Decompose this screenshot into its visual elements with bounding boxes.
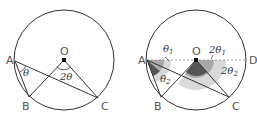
right-label-theta2: θ2 bbox=[160, 73, 171, 86]
left-label-B: B bbox=[22, 100, 30, 113]
right-center-dot bbox=[194, 58, 198, 62]
left-figure: A B C O θ 2θ bbox=[6, 10, 114, 113]
right-arrow-2theta1 bbox=[211, 55, 213, 59]
left-label-A: A bbox=[6, 54, 14, 67]
left-label-theta: θ bbox=[23, 67, 29, 78]
left-angle-arc-O bbox=[57, 67, 71, 70]
left-label-2theta: 2θ bbox=[59, 71, 72, 82]
right-label-A: A bbox=[138, 54, 146, 67]
left-center-dot bbox=[62, 58, 66, 62]
inscribed-angle-diagrams: A B C O θ 2θ A B C O D θ1 θ2 bbox=[0, 0, 257, 117]
right-label-O: O bbox=[192, 45, 201, 58]
right-label-theta1: θ1 bbox=[163, 43, 174, 56]
right-label-2theta2: 2θ2 bbox=[220, 65, 238, 78]
right-label-B: B bbox=[154, 100, 162, 113]
right-label-D: D bbox=[249, 54, 257, 67]
left-radius-OB bbox=[29, 60, 64, 97]
right-figure: A B C O D θ1 θ2 2θ1 2θ2 bbox=[138, 10, 257, 113]
right-label-2theta1: 2θ1 bbox=[208, 44, 226, 57]
left-label-C: C bbox=[101, 100, 109, 113]
left-label-O: O bbox=[60, 45, 69, 58]
right-label-C: C bbox=[232, 100, 240, 113]
